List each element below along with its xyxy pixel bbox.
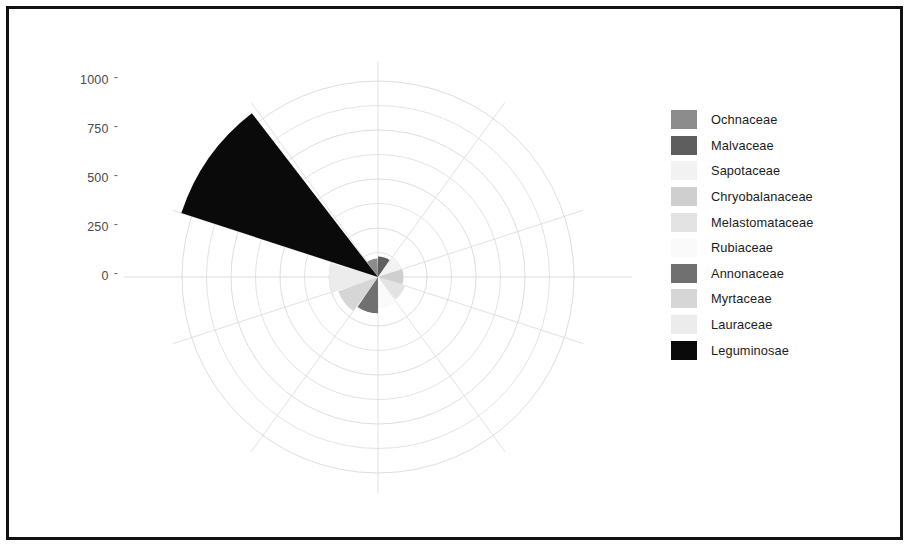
legend-label: Ochnaceae [711,112,777,127]
legend-item[interactable]: Sapotaceae [671,158,896,184]
legend-swatch [671,238,697,257]
radial-tick-1000: 1000- [60,73,118,87]
tick-mark-icon: - [114,119,118,133]
legend-label: Melastomataceae [711,215,814,230]
legend-label: Sapotaceae [711,163,780,178]
grid-spoke [378,210,583,277]
radial-tick-label: 1000 [80,73,109,87]
grid-spoke [173,277,378,344]
legend: OchnaceaeMalvaceaeSapotaceaeChryobalanac… [671,107,896,363]
legend-item[interactable]: Ochnaceae [671,107,896,133]
legend-label: Chryobalanaceae [711,189,813,204]
legend-item[interactable]: Melastomataceae [671,209,896,235]
legend-item[interactable]: Leguminosae [671,337,896,363]
legend-item[interactable]: Rubiaceae [671,235,896,261]
legend-item[interactable]: Annonaceae [671,261,896,287]
legend-label: Lauraceae [711,317,772,332]
grid-spoke [378,277,583,344]
legend-swatch [671,213,697,232]
legend-swatch [671,136,697,155]
radial-tick-label: 0 [101,269,108,283]
radial-tick-label: 500 [87,171,108,185]
legend-swatch [671,264,697,283]
tick-mark-icon: - [114,70,118,84]
legend-swatch [671,110,697,129]
radial-tick-750: 750- [60,122,118,136]
legend-swatch [671,187,697,206]
grid-spoke [378,277,505,452]
legend-item[interactable]: Myrtaceae [671,286,896,312]
legend-swatch [671,289,697,308]
grid-spoke [251,277,378,452]
tick-mark-icon: - [114,217,118,231]
legend-label: Annonaceae [711,266,784,281]
rose-wedge [181,113,378,277]
legend-label: Myrtaceae [711,291,772,306]
legend-swatch [671,161,697,180]
legend-label: Leguminosae [711,343,789,358]
legend-swatch [671,315,697,334]
radial-tick-500: 500- [60,171,118,185]
grid-spoke [378,102,505,277]
radial-tick-0: 0- [60,269,118,283]
radial-tick-label: 250 [87,220,108,234]
tick-mark-icon: - [114,168,118,182]
radial-tick-250: 250- [60,220,118,234]
legend-label: Malvaceae [711,138,774,153]
radial-tick-label: 750 [87,122,108,136]
tick-mark-icon: - [114,266,118,280]
rose-wedges [181,113,405,313]
legend-item[interactable]: Chryobalanaceae [671,184,896,210]
legend-swatch [671,341,697,360]
legend-label: Rubiaceae [711,240,773,255]
legend-item[interactable]: Malvaceae [671,133,896,159]
legend-item[interactable]: Lauraceae [671,312,896,338]
